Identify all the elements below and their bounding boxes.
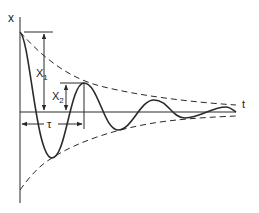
x1-label: X1 bbox=[36, 67, 48, 82]
x2-label: X2 bbox=[52, 90, 64, 105]
damped-oscillation-diagram: x t X1 X2 τ bbox=[0, 0, 259, 213]
y-axis-label: x bbox=[8, 11, 14, 25]
t-axis-label: t bbox=[242, 98, 245, 110]
period-label: τ bbox=[47, 118, 52, 130]
lower-envelope bbox=[20, 116, 236, 190]
